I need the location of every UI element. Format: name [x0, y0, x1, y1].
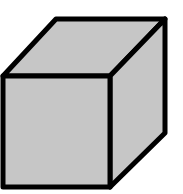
cube-front-face — [3, 76, 110, 187]
cube-diagram — [0, 0, 183, 194]
